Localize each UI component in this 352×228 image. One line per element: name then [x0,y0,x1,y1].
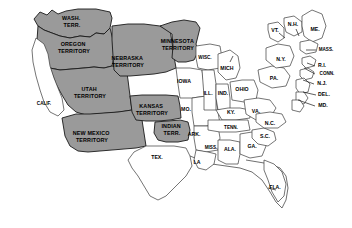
state-label-va: VA. [252,108,261,114]
territory-label-washington: WASH. TERR. [62,15,82,28]
state-label-ri: R.I. [318,62,327,68]
state-label-mo: MO. [181,106,191,112]
state-label-mass: MASS. [319,47,334,52]
interior-boundaries [176,10,326,202]
state-label-ark: ARK. [188,131,201,137]
territory-label-line1: WASH. [62,15,81,21]
territory-label-line2: TERRITORY [162,45,194,51]
territory-label-line1: INDIAN [161,123,180,129]
state-label-ky: KY. [227,109,236,115]
territory-label-line1: OREGON [61,41,86,47]
territory-label-line2: TERRITORY [112,62,144,68]
territory-label-new-mexico: NEW MEXICO TERRITORY [73,130,112,143]
state-label-nh: N.H. [288,21,299,27]
state-label-ny: N.Y. [276,56,286,62]
territory-label-line2: TERRITORY [58,48,90,54]
state-label-ind: IND. [218,90,229,96]
territory-label-line1: UTAH [82,86,97,92]
state-label-conn: CONN. [320,71,335,76]
territory-label-line2: TERRITORY [136,110,168,116]
state-label-calif: CALIF. [37,101,51,106]
territory-label-nebraska: NEBRASKA TERRITORY [111,55,144,68]
state-label-me: ME. [310,26,320,32]
state-label-del: DEL. [318,91,330,97]
state-label-nj: N.J. [317,80,327,86]
state-label-miss: MISS. [205,145,218,150]
territory-label-kansas: KANSAS TERRITORY [136,103,168,116]
state-label-ill: ILL. [203,90,213,96]
territory-label-line1: KANSAS [139,103,163,109]
state-label-mich: MICH [220,65,234,71]
state-label-sc: S.C. [260,133,271,139]
territory-label-line1: NEW MEXICO [73,130,110,136]
state-label-tex: TEX. [151,154,163,160]
state-label-md: MD. [318,102,328,108]
territory-label-line2: TERR. [164,130,181,136]
state-label-pa: PA. [270,75,279,81]
territory-label-minnesota: MINNESOTA TERRITORY [161,38,196,51]
state-label-fla: FLA. [269,184,281,190]
historical-us-territorial-map: WASH. TERR. OREGON TERRITORY UTAH TERRIT… [0,0,352,228]
territory-label-line2: TERR. [64,22,81,28]
territory-label-line2: TERRITORY [76,137,108,143]
state-label-tenn: TENN. [224,125,238,130]
territory-label-oregon: OREGON TERRITORY [58,41,90,54]
state-label-wisc: WISC. [198,55,211,60]
state-label-ga: GA. [247,143,257,149]
state-label-ohio: OHIO [235,86,248,92]
map-canvas: WASH. TERR. OREGON TERRITORY UTAH TERRIT… [0,0,352,228]
state-label-ala: ALA. [224,146,237,152]
territory-label-line1: NEBRASKA [111,55,143,61]
territory-label-indian: INDIAN TERR. [161,123,182,136]
state-label-vt: VT. [271,27,279,33]
territory-label-line2: TERRITORY [74,93,106,99]
state-label-iowa: IOWA [177,78,191,84]
state-label-nc: N.C. [265,120,276,126]
territory-label-line1: MINNESOTA [161,38,194,44]
state-label-la: LA [194,159,201,165]
